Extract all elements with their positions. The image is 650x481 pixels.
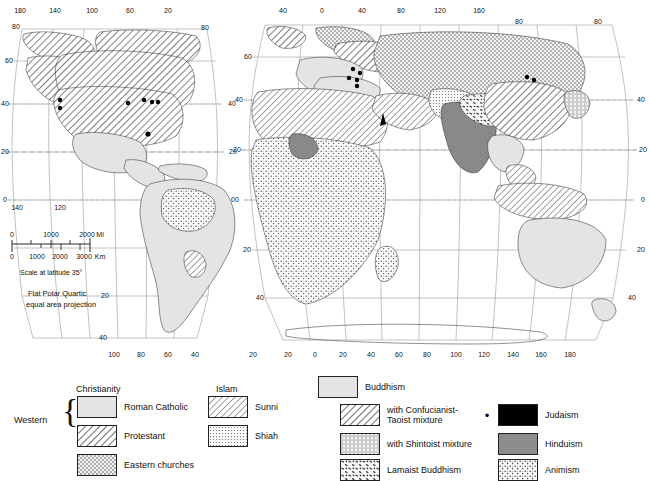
svg-text:60: 60 [395, 351, 403, 358]
maps-svg: 180 140 100 60 20 80 80 60 40 20 0 140 1… [0, 0, 650, 368]
svg-text:20: 20 [243, 246, 251, 253]
legend-item-shintoist[interactable]: with Shintoist mixture [340, 433, 472, 455]
svg-text:140: 140 [49, 7, 61, 14]
swatch-shintoist [340, 433, 380, 455]
judaism-dot [355, 84, 359, 88]
svg-text:Scale at latitude 35°: Scale at latitude 35° [20, 269, 83, 276]
svg-text:20: 20 [164, 7, 172, 14]
svg-text:180: 180 [14, 7, 26, 14]
legend-label-hinduism: Hinduism [545, 439, 583, 449]
svg-text:1000: 1000 [29, 253, 45, 260]
svg-text:20: 20 [637, 246, 645, 253]
svg-text:Ml: Ml [96, 231, 104, 238]
judaism-dot [142, 98, 146, 102]
legend-item-judaism[interactable]: • Judaism [482, 404, 579, 426]
legend-label-sunni: Sunni [255, 402, 278, 412]
west-left-latitude-labels: 60 40 20 0 [1, 57, 13, 203]
legend-label-animism: Animism [545, 465, 580, 475]
judaism-dot [58, 106, 62, 110]
swatch-animism [498, 459, 538, 481]
svg-text:120: 120 [478, 351, 490, 358]
svg-text:0: 0 [313, 351, 317, 358]
legend-label-confucianist-taoist: with Confucianist- Taoist mixture [387, 405, 458, 425]
svg-text:20: 20 [284, 351, 292, 358]
legend-label-eastern-churches: Eastern churches [124, 460, 194, 470]
map-area: 180 140 100 60 20 80 80 60 40 20 0 140 1… [0, 0, 650, 368]
svg-text:140: 140 [11, 204, 23, 211]
judaism-dot [355, 78, 359, 82]
judaism-dot [150, 100, 154, 104]
svg-text:100: 100 [108, 351, 120, 358]
svg-text:160: 160 [473, 7, 485, 14]
svg-text:80: 80 [201, 24, 209, 31]
legend-item-buddhism[interactable]: Buddhism [318, 376, 405, 398]
svg-text:60: 60 [244, 53, 252, 60]
svg-text:60: 60 [5, 57, 13, 64]
legend-label-lamaist-buddhism: Lamaist Buddhism [387, 465, 461, 475]
svg-text:3000: 3000 [76, 253, 92, 260]
svg-text:20: 20 [639, 146, 647, 153]
legend-label-shiah: Shiah [255, 431, 278, 441]
judaism-dot [156, 100, 160, 104]
east-bottom-longitude-labels: 20 20 0 20 40 60 80 100 120 140 160 180 [249, 351, 576, 358]
svg-text:180: 180 [564, 351, 576, 358]
svg-text:80: 80 [515, 18, 523, 25]
legend-item-lamaist-buddhism[interactable]: Lamaist Buddhism [340, 459, 461, 481]
madagascar [375, 246, 398, 281]
svg-text:40: 40 [99, 334, 107, 341]
legend-label-buddhism: Buddhism [365, 382, 405, 392]
antarctica-edge [286, 324, 547, 344]
legend-item-roman-catholic[interactable]: Roman Catholic [77, 396, 188, 418]
svg-text:140: 140 [507, 351, 519, 358]
svg-text:20: 20 [233, 146, 241, 153]
new-zealand [592, 299, 616, 321]
swatch-judaism [498, 404, 538, 426]
legend-heading-christianity: Christianity [76, 384, 121, 394]
svg-text:0: 0 [641, 196, 645, 203]
svg-text:Km: Km [95, 253, 106, 260]
australia [518, 218, 606, 288]
swatch-buddhism [318, 376, 358, 398]
svg-text:equal area projection: equal area projection [26, 300, 96, 309]
legend-item-protestant[interactable]: Protestant [77, 425, 165, 447]
legend-heading-islam: Islam [216, 384, 238, 394]
svg-text:80: 80 [397, 7, 405, 14]
svg-text:20: 20 [339, 351, 347, 358]
judaism-dot [358, 71, 362, 75]
indonesia-sunni [494, 183, 587, 220]
svg-text:1000: 1000 [43, 231, 59, 238]
swatch-shiah [208, 425, 248, 447]
svg-text:100: 100 [450, 351, 462, 358]
svg-text:80: 80 [594, 18, 602, 25]
east-right-latitude-labels: 40 20 0 20 40 [628, 96, 647, 301]
svg-text:40: 40 [367, 351, 375, 358]
svg-text:40: 40 [637, 96, 645, 103]
svg-text:40: 40 [256, 294, 264, 301]
china-confucianist [484, 82, 572, 140]
svg-text:2000: 2000 [79, 231, 95, 238]
svg-text:60: 60 [126, 7, 134, 14]
iceland-north-atlantic [267, 26, 306, 48]
legend-label-judaism: Judaism [545, 410, 579, 420]
svg-text:160: 160 [535, 351, 547, 358]
legend-label-shintoist: with Shintoist mixture [387, 439, 472, 449]
swatch-protestant [77, 425, 117, 447]
legend-item-shiah[interactable]: Shiah [208, 425, 278, 447]
judaism-dot-marker: • [482, 409, 492, 422]
legend-item-sunni[interactable]: Sunni [208, 396, 278, 418]
judaism-dot [126, 101, 130, 105]
swatch-eastern-churches [77, 454, 117, 476]
legend-item-eastern-churches[interactable]: Eastern churches [77, 454, 194, 476]
swatch-sunni [208, 396, 248, 418]
western-brace: { [62, 394, 78, 428]
legend: Christianity Western { Roman Catholic Pr… [0, 368, 650, 479]
svg-text:20: 20 [249, 351, 257, 358]
svg-text:80: 80 [423, 351, 431, 358]
svg-text:40: 40 [358, 7, 366, 14]
svg-text:100: 100 [86, 7, 98, 14]
legend-item-animism[interactable]: Animism [498, 459, 580, 481]
judaism-dot [145, 131, 150, 136]
legend-item-confucianist-taoist[interactable]: with Confucianist- Taoist mixture [340, 404, 458, 426]
legend-item-hinduism[interactable]: Hinduism [498, 433, 583, 455]
svg-text:80: 80 [12, 23, 20, 30]
